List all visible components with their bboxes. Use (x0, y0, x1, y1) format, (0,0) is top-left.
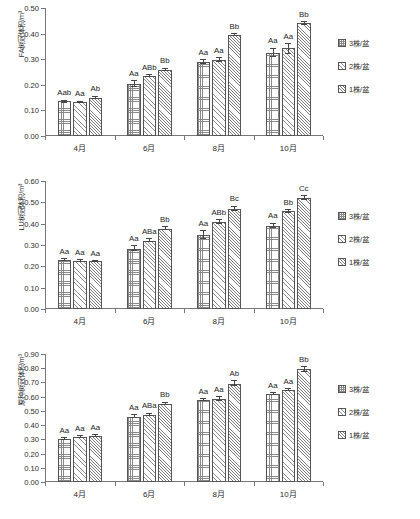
legend-item[interactable]: 3株/盆 (338, 384, 418, 393)
error-bar-cap (270, 48, 276, 49)
x-axis-tick-label: 4月 (74, 315, 86, 326)
error-bar-cap (92, 434, 98, 435)
bar (266, 226, 280, 309)
significance-annotation: Bb (160, 215, 170, 224)
y-axis-tick-label: 0.00 (24, 132, 39, 141)
error-bar-cap (285, 53, 291, 54)
legend-label: 3株/盆 (349, 37, 369, 48)
y-axis-tick (41, 354, 45, 355)
bar (127, 417, 141, 482)
error-bar-cap (146, 238, 152, 239)
bar (143, 241, 157, 309)
bar (297, 23, 311, 136)
y-axis-tick (41, 411, 45, 412)
x-axis-tick-label: 6月 (143, 315, 155, 326)
legend-item[interactable]: 2株/盆 (338, 407, 418, 416)
legend-fa: 3株/盆2株/盆1株/盆 (338, 38, 418, 107)
legend-label: 3株/盆 (349, 383, 369, 394)
x-axis-tick (254, 136, 255, 140)
bar (282, 48, 296, 136)
legend-swatch-grid-icon (338, 39, 346, 47)
significance-annotation: Aa (198, 387, 208, 396)
bar (143, 76, 157, 136)
significance-annotation: Bb (229, 22, 239, 31)
error-bar-cap (285, 388, 291, 389)
error-bar-cap (131, 86, 137, 87)
y-axis-tick-label: 0.30 (24, 241, 39, 250)
x-axis-tick-label: 8月 (213, 142, 225, 153)
legend-label: 3株/盆 (349, 210, 369, 221)
figure-root: FA树冠体积/m³ 0.000.100.200.300.400.504月AabA… (0, 0, 420, 519)
significance-annotation: Aa (214, 46, 224, 55)
y-axis-tick-label: 0.60 (24, 177, 39, 186)
bar (228, 209, 242, 309)
error-bar-cap (131, 417, 137, 418)
error-bar-cap (200, 400, 206, 401)
y-axis-tick-label: 0.30 (24, 55, 39, 64)
significance-annotation: Aa (59, 247, 69, 256)
legend-label: 2株/盆 (349, 233, 369, 244)
significance-annotation: Aa (283, 377, 293, 386)
error-bar-cap (270, 223, 276, 224)
y-axis-tick-label: 0.10 (24, 106, 39, 115)
error-bar-cap (162, 402, 168, 403)
legend-label: 1株/盆 (349, 256, 369, 267)
x-axis-tick (45, 136, 46, 140)
legend-label: 2株/盆 (349, 406, 369, 417)
error-bar-cap (270, 394, 276, 395)
x-axis-tick-label: 10月 (280, 315, 297, 326)
bar (197, 400, 211, 482)
legend-swatch-hatch-icon (338, 235, 346, 243)
legend-label: 1株/盆 (349, 429, 369, 440)
x-axis-tick (254, 309, 255, 313)
legend-item[interactable]: 3株/盆 (338, 38, 418, 47)
bar (212, 222, 226, 309)
significance-annotation: ABa (142, 227, 157, 236)
error-bar-cap (146, 413, 152, 414)
significance-annotation: Ab (229, 369, 239, 378)
significance-annotation: ABa (142, 401, 157, 410)
bar (266, 394, 280, 482)
error-bar-cap (92, 98, 98, 99)
y-axis-label: FA树冠体积/m³ (16, 0, 28, 88)
legend-swatch-hatch2-icon (338, 258, 346, 266)
significance-annotation: Cc (299, 184, 309, 193)
bar (297, 369, 311, 482)
legend-item[interactable]: 1株/盆 (338, 84, 418, 93)
y-axis-line (45, 8, 46, 136)
y-axis-tick (41, 224, 45, 225)
significance-annotation: Ab (90, 84, 100, 93)
error-bar-cap (162, 229, 168, 230)
y-axis-tick (41, 266, 45, 267)
y-axis-tick (41, 59, 45, 60)
error-bar-cap (200, 230, 206, 231)
bar (212, 399, 226, 482)
error-bar-cap (270, 392, 276, 393)
error-bar-cap (77, 261, 83, 262)
legend-item[interactable]: 1株/盆 (338, 257, 418, 266)
bar (282, 211, 296, 309)
y-axis-tick (41, 439, 45, 440)
legend-item[interactable]: 1株/盆 (338, 430, 418, 439)
bar (297, 198, 311, 309)
error-bar-cap (92, 96, 98, 97)
x-axis-tick (323, 136, 324, 140)
significance-annotation: Bb (160, 390, 170, 399)
error-bar-cap (162, 68, 168, 69)
error-bar-cap (162, 404, 168, 405)
bar (58, 260, 72, 309)
y-axis-tick-label: 0.40 (24, 219, 39, 228)
significance-annotation: Bb (283, 198, 293, 207)
legend-item[interactable]: 2株/盆 (338, 234, 418, 243)
y-axis-tick-label: 0.50 (24, 198, 39, 207)
legend-item[interactable]: 2株/盆 (338, 61, 418, 70)
significance-annotation: Aa (283, 32, 293, 41)
y-axis-line (45, 354, 46, 482)
bar (228, 35, 242, 136)
y-axis-tick (41, 425, 45, 426)
x-axis-tick-label: 4月 (74, 488, 86, 499)
x-axis-tick (184, 309, 185, 313)
error-bar-cap (131, 245, 137, 246)
legend-item[interactable]: 3株/盆 (338, 211, 418, 220)
y-axis-tick (41, 382, 45, 383)
